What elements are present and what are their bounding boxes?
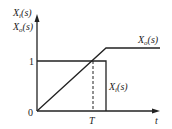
x-axis-arrow-icon (152, 109, 160, 114)
output-curve-label: Xo(s) (137, 34, 159, 47)
y-axis-arrow-icon (35, 14, 40, 22)
output-curve (37, 48, 160, 111)
level-one-label: 1 (29, 56, 34, 67)
x-axis-label: t (155, 115, 158, 126)
time-marker-label: T (89, 115, 96, 126)
input-curve (37, 61, 106, 111)
step-ramp-diagram: Xi(s) Xo(s) 1 0 T t Xo(s) Xi(s) (0, 0, 172, 129)
y-axis-label-input: Xi(s) (12, 7, 32, 20)
input-curve-label: Xi(s) (108, 81, 128, 94)
y-axis-label-output: Xo(s) (12, 21, 34, 34)
origin-label: 0 (28, 107, 33, 118)
